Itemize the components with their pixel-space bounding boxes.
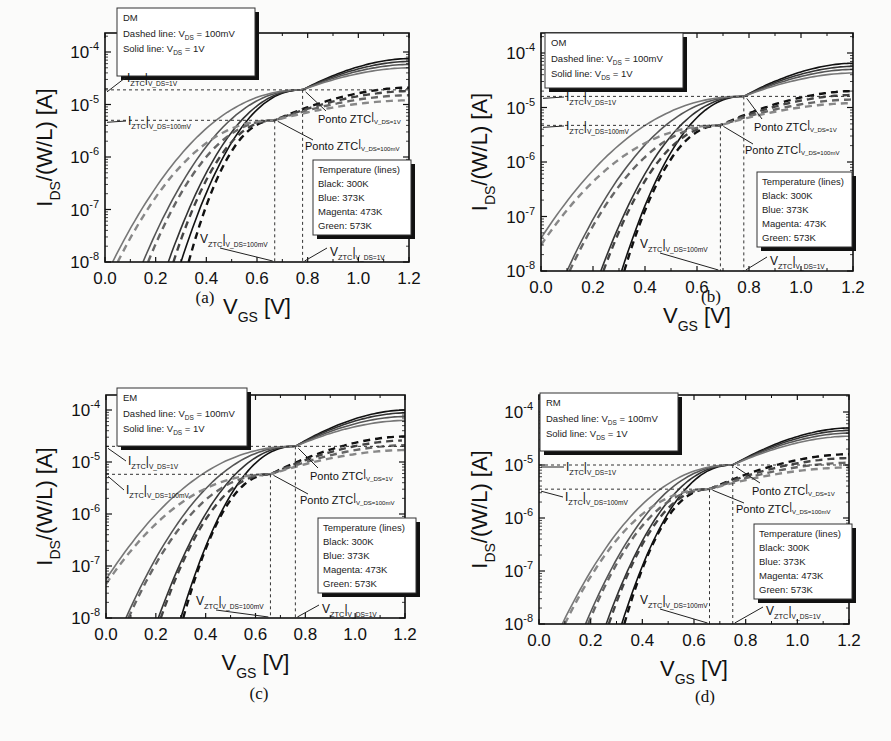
figure: 0.00.20.40.60.81.01.210-810-710-610-510-…	[0, 0, 891, 741]
temperature-legend-line: Green: 573K	[762, 232, 817, 243]
mode-label: RM	[546, 397, 561, 408]
x-tick-label: 0.2	[144, 625, 168, 644]
temperature-legend-line: Temperature (lines)	[318, 164, 400, 175]
x-tick-label: 0.8	[734, 631, 758, 650]
mode-label: DM	[123, 12, 138, 23]
temperature-legend-line: Blue: 373K	[323, 550, 370, 561]
y-axis-title: IDS/(W/L) [A]	[32, 447, 63, 565]
svg-text:VZTC|V_DS=100mV: VZTC|V_DS=100mV	[196, 594, 264, 611]
svg-text:Ponto ZTC|V_DS=1V: Ponto ZTC|V_DS=1V	[310, 467, 393, 482]
temperature-legend-line: Black: 300K	[318, 178, 369, 189]
x-tick-label: 0.4	[194, 625, 218, 644]
svg-text:VZTC|V_DS=1V: VZTC|V_DS=1V	[330, 245, 385, 262]
x-tick-label: 0.2	[581, 278, 605, 297]
x-tick-label: 0.0	[93, 269, 117, 288]
mode-label: OM	[551, 37, 566, 48]
x-tick-label: 0.0	[527, 631, 551, 650]
panel-a: 0.00.20.40.60.81.01.210-810-710-610-510-…	[32, 8, 421, 325]
x-tick-label: 0.2	[579, 631, 603, 650]
panel-b: 0.00.20.40.60.81.01.210-810-710-610-510-…	[467, 33, 865, 334]
x-tick-label: 0.8	[294, 625, 318, 644]
x-axis-title: VGS [V]	[663, 303, 731, 334]
svg-text:VZTC|V_DS=1V: VZTC|V_DS=1V	[770, 254, 825, 271]
x-tick-label: 0.8	[737, 278, 761, 297]
svg-text:IZTC|V_DS=1V: IZTC|V_DS=1V	[566, 90, 617, 107]
x-tick-label: 1.0	[343, 625, 367, 644]
y-tick-label: 10-6	[506, 150, 535, 172]
temperature-legend-line: Temperature (lines)	[762, 176, 844, 187]
temperature-legend-line: Black: 300K	[762, 190, 813, 201]
mode-label: EM	[123, 392, 137, 403]
y-tick-label: 10-7	[70, 198, 99, 220]
x-tick-label: 0.0	[529, 278, 553, 297]
svg-text:IZTC|V_DS=100mV: IZTC|V_DS=100mV	[566, 119, 630, 136]
y-tick-label: 10-5	[504, 453, 533, 475]
y-tick-label: 10-4	[71, 398, 100, 420]
panel-caption: (b)	[701, 287, 721, 306]
x-tick-label: 0.6	[682, 631, 706, 650]
svg-text:Ponto ZTC|V_DS=100mV: Ponto ZTC|V_DS=100mV	[745, 141, 840, 156]
x-axis-title: VGS [V]	[223, 294, 291, 325]
temperature-legend-line: Magenta: 473K	[759, 570, 824, 581]
y-tick-label: 10-5	[506, 96, 535, 118]
svg-text:Ponto ZTC|V_DS=100mV: Ponto ZTC|V_DS=100mV	[736, 500, 831, 515]
x-tick-label: 1.0	[786, 631, 810, 650]
x-axis-title: VGS [V]	[660, 656, 728, 687]
x-tick-label: 0.0	[94, 625, 118, 644]
svg-text:IZTC|V_DS=1V: IZTC|V_DS=1V	[128, 454, 179, 471]
svg-text:VZTC|V_DS=100mV: VZTC|V_DS=100mV	[640, 593, 708, 610]
x-axis-title: VGS [V]	[222, 650, 290, 681]
svg-text:IZTC|V_DS=100mV: IZTC|V_DS=100mV	[565, 490, 629, 507]
panel-c: 0.00.20.40.60.81.01.210-810-710-610-510-…	[32, 388, 420, 703]
y-tick-label: 10-6	[71, 502, 100, 524]
x-tick-label: 0.6	[244, 625, 268, 644]
temperature-legend-line: Blue: 373K	[762, 204, 809, 215]
temperature-legend-line: Magenta: 473K	[318, 206, 383, 217]
svg-text:IZTC|V_DS=1V: IZTC|V_DS=1V	[566, 460, 617, 477]
x-tick-label: 0.4	[195, 269, 219, 288]
y-tick-label: 10-7	[506, 205, 535, 227]
x-tick-label: 1.2	[397, 269, 421, 288]
x-tick-label: 0.4	[633, 278, 657, 297]
y-tick-label: 10-5	[70, 93, 99, 115]
svg-text:VZTC|V_DS=1V: VZTC|V_DS=1V	[322, 602, 377, 619]
x-tick-label: 1.2	[393, 625, 417, 644]
temperature-legend-line: Black: 300K	[759, 542, 810, 553]
panel-caption: (c)	[250, 684, 269, 703]
panel-caption: (a)	[196, 288, 215, 307]
y-tick-label: 10-7	[504, 559, 533, 581]
svg-text:Ponto ZTC|V_DS=1V: Ponto ZTC|V_DS=1V	[752, 482, 835, 497]
y-tick-label: 10-6	[504, 506, 533, 528]
svg-text:VZTC|V_DS=100mV: VZTC|V_DS=100mV	[200, 232, 268, 249]
y-tick-label: 10-7	[71, 554, 100, 576]
panel-d: 0.00.20.40.60.81.01.210-810-710-610-510-…	[467, 393, 861, 706]
temperature-legend-line: Blue: 373K	[318, 192, 365, 203]
svg-text:Ponto ZTC|V_DS=1V: Ponto ZTC|V_DS=1V	[754, 118, 837, 133]
y-tick-label: 10-4	[506, 41, 535, 63]
y-tick-label: 10-5	[71, 450, 100, 472]
temperature-legend-line: Green: 573K	[323, 578, 378, 589]
temperature-legend-line: Black: 300K	[323, 536, 374, 547]
x-tick-label: 0.2	[144, 269, 168, 288]
temperature-legend-line: Blue: 373K	[759, 556, 806, 567]
y-tick-label: 10-4	[70, 40, 99, 62]
x-tick-label: 1.0	[789, 278, 813, 297]
y-axis-title: IDS/(W/L) [A]	[32, 88, 63, 206]
x-tick-label: 0.8	[296, 269, 320, 288]
x-tick-label: 0.6	[245, 269, 269, 288]
svg-text:IZTC|V_DS=100mV: IZTC|V_DS=100mV	[128, 114, 192, 131]
y-axis-title: IDS/(W/L) [A]	[467, 93, 498, 211]
temperature-legend-line: Magenta: 473K	[323, 564, 388, 575]
y-tick-label: 10-4	[504, 400, 533, 422]
y-axis-title: IDS/(W/L) [A]	[467, 450, 498, 568]
x-tick-label: 1.2	[841, 278, 865, 297]
svg-text:VZTC|V_DS=1V: VZTC|V_DS=1V	[766, 604, 821, 621]
x-tick-label: 1.2	[837, 631, 861, 650]
temperature-legend-line: Temperature (lines)	[323, 522, 405, 533]
temperature-legend-line: Temperature (lines)	[759, 528, 841, 539]
svg-text:IZTC|V_DS=100mV: IZTC|V_DS=100mV	[126, 483, 190, 500]
panel-caption: (d)	[695, 687, 715, 706]
x-tick-label: 0.4	[631, 631, 655, 650]
x-tick-label: 1.0	[347, 269, 371, 288]
svg-text:Ponto ZTC|V_DS=100mV: Ponto ZTC|V_DS=100mV	[305, 137, 400, 152]
